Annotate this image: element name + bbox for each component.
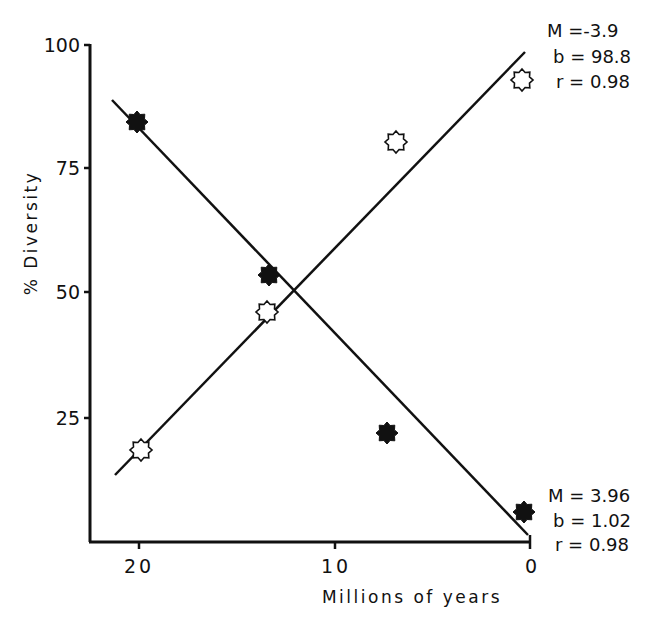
filled-star-series bbox=[126, 111, 535, 523]
x-tick-label-0: 0 bbox=[525, 555, 537, 577]
filled-star-icon bbox=[513, 501, 535, 523]
filled-star-icon bbox=[126, 111, 148, 133]
y-tick-labels: 100 75 50 25 bbox=[44, 34, 80, 429]
y-tick-label-25: 25 bbox=[56, 407, 80, 429]
top-stat-b: b = 98.8 bbox=[553, 46, 631, 67]
open-star-icon bbox=[385, 131, 407, 153]
x-axis-title: Millions of years bbox=[322, 587, 502, 607]
open-star-icon bbox=[256, 301, 278, 323]
x-tick-label-20: 20 bbox=[124, 555, 154, 577]
y-tick-label-75: 75 bbox=[56, 157, 80, 179]
y-tick-label-50: 50 bbox=[56, 281, 80, 303]
top-stats-annotation: M =-3.9 b = 98.8 r = 0.98 bbox=[547, 20, 631, 92]
fit-line-increasing bbox=[115, 52, 525, 475]
open-star-icon bbox=[130, 439, 152, 461]
top-stat-r: r = 0.98 bbox=[556, 71, 630, 92]
x-tick-labels: 20 10 0 bbox=[124, 555, 537, 577]
top-stat-m: M =-3.9 bbox=[547, 20, 618, 41]
bottom-stats-annotation: M = 3.96 b = 1.02 r = 0.98 bbox=[548, 485, 631, 555]
open-star-series bbox=[130, 69, 533, 461]
bottom-stat-m: M = 3.96 bbox=[548, 485, 630, 506]
filled-star-icon bbox=[258, 264, 280, 286]
y-axis-title: % Diversity bbox=[21, 171, 41, 296]
x-tick-label-10: 10 bbox=[321, 555, 351, 577]
open-star-icon bbox=[511, 69, 533, 91]
scatter-chart: 100 75 50 25 20 10 0 Millions of years %… bbox=[0, 0, 652, 623]
bottom-stat-b: b = 1.02 bbox=[553, 510, 631, 531]
axes bbox=[84, 44, 531, 549]
fit-line-decreasing bbox=[112, 100, 528, 535]
filled-star-icon bbox=[376, 422, 398, 444]
bottom-stat-r: r = 0.98 bbox=[555, 534, 629, 555]
y-tick-label-100: 100 bbox=[44, 34, 80, 56]
